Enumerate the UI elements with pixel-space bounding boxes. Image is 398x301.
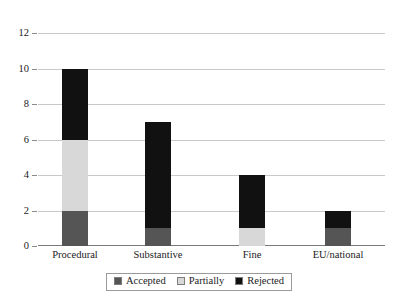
bar-segment-partially[interactable] (239, 228, 265, 246)
x-axis-tick-label: Fine (243, 250, 262, 261)
bar-segment-accepted[interactable] (145, 228, 171, 246)
bar-group[interactable]: EU/national (325, 211, 351, 247)
legend-item[interactable]: Accepted (114, 276, 166, 287)
bar-segment-rejected[interactable] (239, 175, 265, 228)
gridline-12 (38, 33, 385, 34)
y-axis-tick-label: 12 (19, 28, 30, 39)
x-axis-tick-label: Substantive (134, 250, 183, 261)
bar-segment-rejected[interactable] (145, 122, 171, 229)
legend-swatch-icon (114, 277, 122, 285)
x-axis-tick-label: EU/national (313, 250, 364, 261)
y-tick-mark-0 (32, 246, 37, 247)
y-axis-tick-label: 8 (24, 99, 29, 110)
bar-segment-rejected[interactable] (325, 211, 351, 229)
stacked-bar-chart: 024681012 ProceduralSubstantiveFineEU/na… (0, 0, 398, 301)
y-tick-mark-6 (32, 140, 37, 141)
gridline-4 (38, 175, 385, 176)
legend-swatch-icon (235, 277, 243, 285)
y-tick-mark-12 (32, 33, 37, 34)
y-axis-tick-label: 6 (24, 134, 29, 145)
legend-item[interactable]: Rejected (235, 276, 284, 287)
y-tick-mark-2 (32, 211, 37, 212)
legend-label: Rejected (247, 276, 284, 287)
legend-item[interactable]: Partially (177, 276, 225, 287)
y-tick-mark-10 (32, 69, 37, 70)
bar-segment-accepted[interactable] (325, 228, 351, 246)
bar-segment-partially[interactable] (62, 140, 88, 211)
gridline-6 (38, 140, 385, 141)
gridline-8 (38, 104, 385, 105)
bar-group[interactable]: Fine (239, 175, 265, 246)
gridline-10 (38, 69, 385, 70)
bar-group[interactable]: Procedural (62, 69, 88, 247)
legend-label: Accepted (126, 276, 166, 287)
bar-group[interactable]: Substantive (145, 122, 171, 246)
bar-segment-rejected[interactable] (62, 69, 88, 140)
y-axis-tick-label: 2 (24, 205, 29, 216)
y-axis-tick-label: 0 (24, 241, 29, 252)
chart-legend: AcceptedPartiallyRejected (106, 273, 292, 291)
y-axis-tick-label: 10 (19, 63, 30, 74)
y-axis-tick-label: 4 (24, 170, 29, 181)
x-axis-tick-label: Procedural (52, 250, 97, 261)
plot-area: 024681012 ProceduralSubstantiveFineEU/na… (38, 33, 385, 246)
y-tick-mark-8 (32, 104, 37, 105)
y-tick-mark-4 (32, 175, 37, 176)
legend-label: Partially (189, 276, 225, 287)
legend-swatch-icon (177, 277, 185, 285)
bar-segment-accepted[interactable] (62, 211, 88, 247)
